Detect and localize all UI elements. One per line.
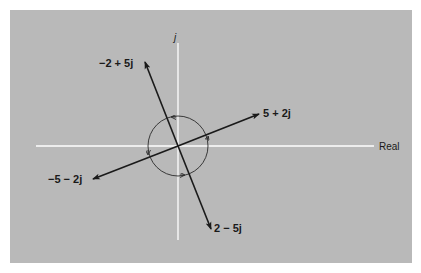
imaginary-axis-label: j [174,33,176,43]
real-axis-label: Real [379,142,400,152]
vector-2-minus-5j [178,146,211,229]
label-minus-2-plus-5j: −2 + 5j [99,58,133,69]
vector-minus-2-plus-5j [145,62,178,146]
vector-minus-5-minus-2j [93,146,178,179]
label-5-plus-2j: 5 + 2j [263,108,291,119]
label-2-minus-5j: 2 − 5j [214,223,242,234]
complex-plane-diagram [0,0,421,273]
label-minus-5-minus-2j: −5 − 2j [48,174,82,185]
